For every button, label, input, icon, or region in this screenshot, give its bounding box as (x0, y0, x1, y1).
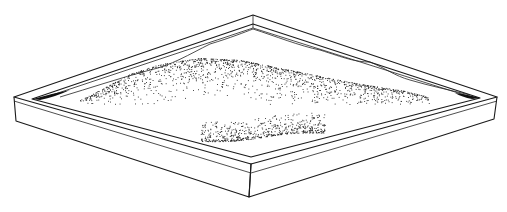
tray-rim-inner (32, 24, 480, 157)
tray-drawing (0, 0, 507, 212)
tray-lip-left (14, 101, 251, 173)
sandbox-illustration: Sandbox tray with sand mounds (0, 0, 507, 212)
tray-lip-right (251, 101, 497, 173)
corner-shadow-left (33, 90, 70, 100)
